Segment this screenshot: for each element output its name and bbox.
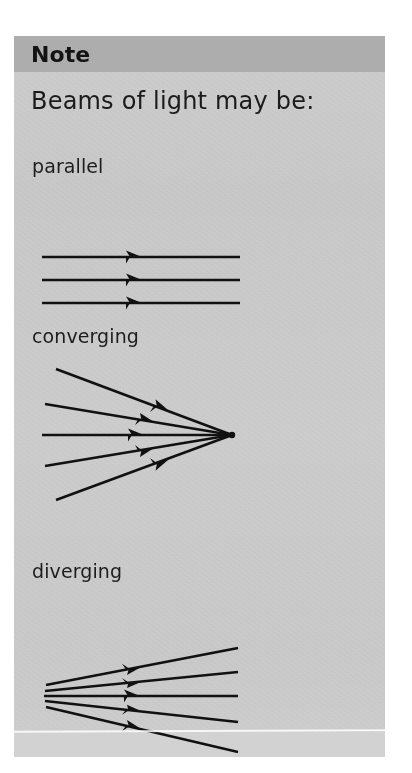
diverging-ray-1 — [46, 648, 238, 685]
parallel-ray-2 — [42, 274, 240, 287]
diagram-parallel-beams — [14, 196, 385, 336]
converging-ray-4 — [45, 435, 232, 466]
note-panel: Note Beams of light may be: parallel — [14, 36, 385, 757]
diverging-ray-3 — [44, 690, 238, 703]
beam-label-diverging: diverging — [32, 559, 122, 583]
converging-ray-1 — [56, 369, 232, 435]
converging-ray-5 — [56, 435, 232, 500]
parallel-ray-1 — [42, 251, 240, 264]
beam-label-converging: converging — [32, 324, 139, 348]
parallel-ray-3 — [42, 297, 240, 310]
diverging-ray-2 — [45, 672, 238, 691]
converging-ray-2 — [45, 404, 232, 435]
note-header-band: Note — [14, 36, 385, 72]
parallel-rays-svg — [14, 196, 385, 336]
converging-focal-point — [229, 432, 235, 438]
diverging-ray-4 — [45, 701, 238, 722]
converging-rays-svg — [14, 351, 385, 561]
beam-label-parallel: parallel — [32, 154, 103, 178]
page-canvas: Note Beams of light may be: parallel — [0, 0, 412, 773]
intro-line: Beams of light may be: — [31, 86, 314, 116]
note-title: Note — [31, 40, 90, 69]
diagram-converging-beams — [14, 351, 385, 561]
